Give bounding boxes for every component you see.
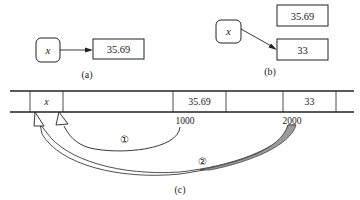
address-1000: 1000 — [176, 116, 195, 126]
variable-name: x — [45, 44, 51, 56]
caption-c: (c) — [174, 184, 185, 196]
panel-b: 35.69 x 33 (b) — [216, 5, 328, 78]
address-2000: 2000 — [283, 116, 302, 126]
reference-arc-2-fill — [40, 124, 296, 175]
old-value-text: 35.69 — [291, 11, 315, 22]
panel-a: x 35.69 (a) — [36, 38, 144, 81]
hollow-arrowhead-icon — [56, 112, 68, 125]
arrowhead-icon — [85, 48, 93, 53]
arrow-label-2: ② — [198, 156, 207, 167]
memory-cell-value-2000: 33 — [305, 96, 315, 107]
panel-c: x 35.69 33 1000 2000 ① ② (c) — [10, 91, 354, 196]
hollow-arrowhead-icon — [34, 112, 44, 126]
arrowhead-icon — [269, 44, 278, 51]
variable-memory-diagram: x 35.69 (a) 35.69 x 33 (b) x 35.69 33 10 — [0, 0, 360, 200]
new-value-text: 33 — [297, 45, 308, 56]
arrow-label-1: ① — [120, 134, 129, 145]
reference-arc-2-tail — [200, 125, 296, 170]
caption-a: (a) — [81, 69, 92, 81]
variable-name: x — [225, 25, 231, 37]
reference-arrow — [241, 29, 273, 47]
memory-cell-variable: x — [43, 96, 49, 107]
value-text: 35.69 — [107, 44, 131, 55]
caption-b: (b) — [264, 66, 276, 78]
memory-cell-value-1000: 35.69 — [188, 96, 211, 107]
